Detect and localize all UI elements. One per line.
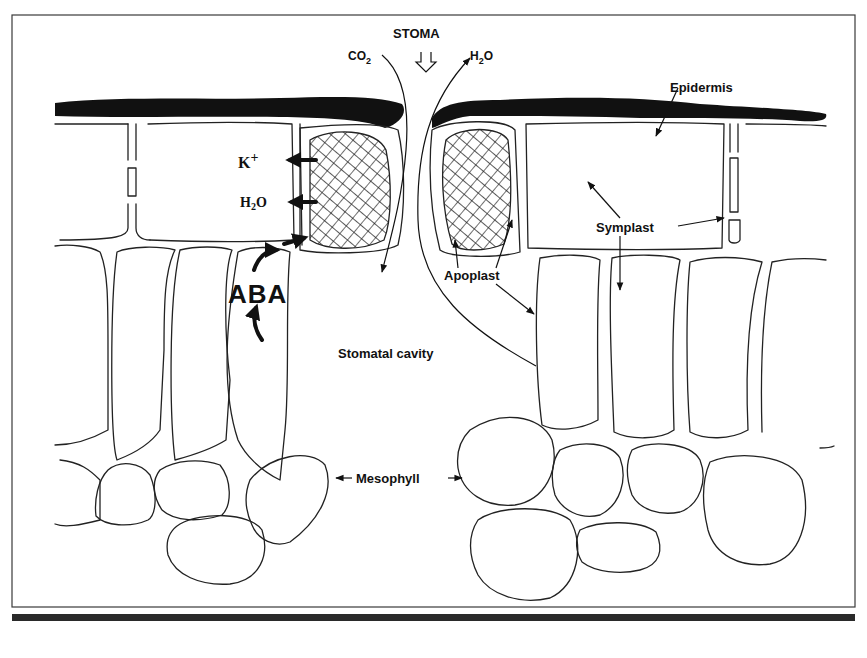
palisade-mesophyll-right — [458, 255, 835, 600]
symplast-pointer-up — [588, 182, 620, 218]
leaf-cross-section-diagram: STOMA CO2 H2O K+ H2O ABA Epidermis Sympl… — [0, 0, 867, 658]
water-flux-label: H2O — [240, 195, 267, 212]
aba-label: ABA — [228, 279, 287, 309]
apoplast-label: Apoplast — [444, 268, 500, 283]
symplast-pointer-right — [678, 218, 724, 226]
potassium-label: K+ — [238, 150, 258, 171]
epidermal-cells-left — [55, 123, 302, 246]
label-pointer-arrows — [336, 88, 724, 478]
epidermis-label: Epidermis — [670, 80, 733, 95]
stoma-label: STOMA — [393, 26, 440, 41]
stomatal-cavity-label: Stomatal cavity — [338, 346, 434, 361]
apoplast-pointer-down — [496, 284, 534, 314]
mesophyll-label: Mesophyll — [356, 471, 420, 486]
cuticle-left — [55, 97, 404, 128]
stoma-down-arrow — [416, 52, 436, 72]
epidermal-cells-right — [526, 123, 826, 250]
co2-label: CO2 — [348, 49, 371, 66]
bottom-rule — [12, 614, 855, 621]
guard-cell-left — [300, 125, 404, 253]
guard-cell-vacuole-left — [310, 132, 390, 248]
aba-upward-arrow — [254, 250, 276, 270]
guard-cell-vacuole-right — [443, 130, 511, 251]
aba-upper-arrow — [254, 308, 262, 340]
symplast-label: Symplast — [596, 220, 654, 235]
h2o-gas-label: H2O — [470, 49, 493, 66]
